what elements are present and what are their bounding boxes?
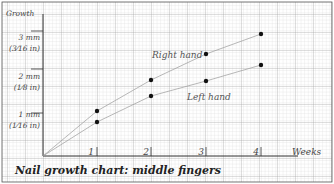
left-hand-point <box>259 63 263 67</box>
graph-paper-background <box>2 2 332 182</box>
right-hand-point <box>95 109 99 113</box>
y-sublabel-1mm: (1⁄16 in) <box>9 121 40 130</box>
right-hand-point <box>259 32 263 36</box>
right-hand-point <box>149 78 153 82</box>
chart-title: Nail growth chart: middle fingers <box>14 164 221 177</box>
left-hand-point <box>149 94 153 98</box>
x-label-2: 2 <box>142 147 149 157</box>
x-label-1: 1 <box>88 147 94 157</box>
x-axis-title: Weeks <box>292 147 322 157</box>
x-label-3: 3 <box>198 147 204 157</box>
right-hand-point <box>204 52 208 56</box>
y-sublabel-3mm: (3⁄16 in) <box>9 44 40 53</box>
y-label-3mm: 3 mm <box>19 33 40 42</box>
left-hand-point <box>95 120 99 124</box>
y-sublabel-2mm: (1⁄8 in) <box>14 83 40 92</box>
right-hand-label: Right hand <box>151 50 203 60</box>
y-label-2mm: 2 mm <box>18 72 40 81</box>
x-label-4: 4 <box>252 147 259 157</box>
nail-growth-chart: Growth 3 mm (3⁄16 in) 2 mm (1⁄8 in) 1 mm… <box>0 0 334 184</box>
y-axis-title: Growth <box>6 9 35 18</box>
left-hand-point <box>204 79 208 83</box>
y-label-1mm: 1 mm <box>19 110 40 119</box>
left-hand-label: Left hand <box>186 92 231 102</box>
